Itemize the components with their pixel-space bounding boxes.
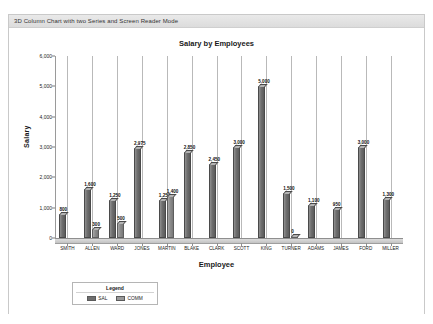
y-axis-tick-label: 4,000 (39, 114, 52, 120)
bar-group[interactable]: 1,5000 (283, 193, 298, 239)
bar-value-label: 1,400 (167, 189, 179, 194)
x-axis-tick-mark (316, 243, 317, 246)
bar-group[interactable]: 1,100 (308, 205, 315, 238)
x-axis-tick-label: FORD (359, 246, 372, 251)
bar-value-label: 950 (333, 202, 341, 207)
y-axis: 01,0002,0003,0004,0005,0006,000 (9, 56, 55, 238)
y-axis-title: Salary (23, 125, 30, 148)
bar-value-label: 3,000 (358, 140, 370, 145)
bar-sal[interactable]: 1,600 (84, 189, 91, 238)
x-axis-tick-mark (192, 243, 193, 246)
x-axis-tick-mark (366, 243, 367, 246)
bar-group[interactable]: 3,000 (233, 147, 240, 238)
bar-value-label: 3,000 (233, 140, 245, 145)
bar-value-label: 1,500 (283, 186, 295, 191)
x-axis-tick-label: KING (261, 246, 272, 251)
bar-value-label: 1,250 (109, 193, 121, 198)
gridline (341, 56, 342, 238)
x-axis-tick-mark (117, 243, 118, 246)
bar-value-label: 500 (117, 216, 125, 221)
x-axis-tick-mark (142, 243, 143, 246)
legend-swatch-icon (87, 296, 96, 301)
chart-canvas[interactable]: Salary by Employees 01,0002,0003,0004,00… (9, 28, 424, 314)
bar-value-label: 800 (59, 207, 67, 212)
bar-group[interactable]: 800 (59, 214, 66, 238)
bar-value-label: 2,850 (184, 145, 196, 150)
bar-top-face (283, 191, 293, 194)
window-title-bar: 3D Column Chart with two Series and Scre… (9, 15, 424, 28)
bar-group[interactable]: 1,2501,400 (159, 196, 174, 238)
plot-area: 8001,6003001,2505002,9751,2501,4002,8502… (55, 56, 403, 238)
bar-comm[interactable]: 300 (92, 229, 99, 238)
bar-value-label: 2,450 (209, 157, 221, 162)
gridline (241, 56, 242, 238)
legend[interactable]: Legend SALCOMM (72, 282, 158, 305)
bar-sal[interactable]: 5,000 (258, 86, 265, 238)
x-axis-tick-mark (241, 243, 242, 246)
legend-title: Legend (76, 285, 154, 293)
bar-sal[interactable]: 2,975 (134, 148, 141, 238)
bar-group[interactable]: 2,975 (134, 148, 141, 238)
bar-sal[interactable]: 3,000 (233, 147, 240, 238)
bar-sal[interactable]: 2,850 (184, 152, 191, 238)
x-axis-tick-label: JAMES (333, 246, 348, 251)
legend-item[interactable]: COMM (116, 296, 142, 301)
bar-sal[interactable]: 1,300 (383, 199, 390, 238)
gridline (316, 56, 317, 238)
x-axis-tick-mark (92, 243, 93, 246)
y-axis-tick-label: 6,000 (39, 53, 52, 59)
bar-group[interactable]: 950 (333, 209, 340, 238)
bar-group[interactable]: 1,300 (383, 199, 390, 238)
bar-sal[interactable]: 1,100 (308, 205, 315, 238)
bar-value-label: 1,100 (308, 198, 320, 203)
legend-items: SALCOMM (73, 296, 157, 301)
x-axis-tick-mark (67, 243, 68, 246)
bar-sal[interactable]: 1,250 (109, 200, 116, 238)
x-axis-tick-label: JONES (134, 246, 149, 251)
bar-value-label: 2,975 (134, 141, 146, 146)
bar-comm[interactable]: 500 (117, 223, 124, 238)
bar-group[interactable]: 5,000 (258, 86, 265, 238)
window-title: 3D Column Chart with two Series and Scre… (14, 18, 178, 24)
bar-sal[interactable]: 2,450 (209, 164, 216, 238)
y-axis-tick-label: 1,000 (39, 205, 52, 211)
x-axis-tick-label: CLARK (209, 246, 224, 251)
x-axis-tick-mark (266, 243, 267, 246)
y-axis-tick-label: 5,000 (39, 83, 52, 89)
gridline (67, 56, 68, 238)
legend-item[interactable]: SAL (87, 296, 107, 301)
bar-group[interactable]: 2,850 (184, 152, 191, 238)
bar-group[interactable]: 1,250500 (109, 200, 124, 238)
bar-top-face (209, 162, 219, 165)
bar-sal[interactable]: 1,500 (283, 193, 290, 239)
x-axis-tick-mark (217, 243, 218, 246)
x-axis-tick-label: MILLER (382, 246, 399, 251)
chart-floor-edge (55, 243, 403, 244)
bar-value-label: 1,600 (84, 182, 96, 187)
plot-background (55, 56, 403, 238)
bar-group[interactable]: 1,600300 (84, 189, 99, 238)
x-axis-tick-mark (341, 243, 342, 246)
bar-value-label: 5,000 (258, 79, 270, 84)
bar-top-face (84, 187, 94, 190)
bar-group[interactable]: 2,450 (209, 164, 216, 238)
bar-group[interactable]: 3,000 (358, 147, 365, 238)
bar-sal[interactable]: 800 (59, 214, 66, 238)
chart-title: Salary by Employees (9, 39, 424, 48)
chart-window: 3D Column Chart with two Series and Scre… (8, 14, 425, 314)
x-axis-tick-label: SMITH (60, 246, 74, 251)
y-axis-tick-label: 2,000 (39, 174, 52, 180)
x-axis-tick-mark (291, 243, 292, 246)
bar-sal[interactable]: 950 (333, 209, 340, 238)
bar-sal[interactable]: 3,000 (358, 147, 365, 238)
legend-label: SAL (98, 296, 107, 301)
bar-top-face (109, 198, 119, 201)
bar-comm[interactable]: 1,400 (167, 196, 174, 238)
bar-sal[interactable]: 1,250 (159, 200, 166, 238)
x-axis-title: Employee (9, 260, 424, 269)
bar-value-label: 300 (92, 222, 100, 227)
bar-value-label: 0 (291, 229, 294, 234)
x-axis-tick-label: SCOTT (234, 246, 250, 251)
x-axis-tick-label: WARD (110, 246, 124, 251)
gridline (366, 56, 367, 238)
